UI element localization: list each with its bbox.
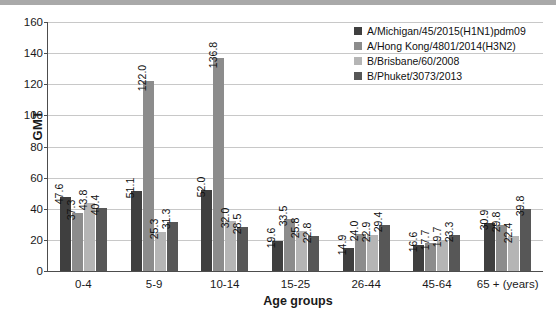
- y-axis-tick-label: 120: [24, 78, 43, 90]
- bar-value-label: 19.6: [265, 227, 277, 247]
- legend-swatch: [354, 57, 362, 65]
- bar-value-label: 29.4: [372, 212, 384, 232]
- bar: 37.3: [72, 213, 83, 271]
- bar-value-label: 22.9: [360, 222, 372, 242]
- bar-value-label: 25.3: [148, 218, 160, 238]
- bar: 136.8: [213, 58, 224, 271]
- x-axis-tick-label: 5-9: [146, 278, 163, 290]
- x-axis-tick-label: 65 + (years): [477, 278, 539, 290]
- legend-label: A/Michigan/45/2015(H1N1)pdm09: [367, 25, 526, 37]
- bar: 29.4: [379, 225, 390, 271]
- bar-value-label: 47.6: [53, 184, 65, 204]
- legend-item: A/Michigan/45/2015(H1N1)pdm09: [354, 25, 526, 37]
- y-axis-tick-label: 160: [24, 16, 43, 28]
- bar-value-label: 52.0: [195, 177, 207, 197]
- legend-item: A/Hong Kong/4801/2014(H3N2): [354, 40, 526, 52]
- bar: 25.3: [155, 232, 166, 271]
- bar: 17.7: [425, 243, 436, 271]
- bar-group: 52.0136.832.028.510-14: [189, 22, 260, 271]
- legend-label: B/Brisbane/60/2008: [367, 55, 459, 67]
- legend-label: B/Phuket/3073/2013: [367, 70, 462, 82]
- legend-swatch: [354, 72, 362, 80]
- y-axis-tick-label: 0: [37, 265, 43, 277]
- bar-value-label: 19.7: [431, 227, 443, 247]
- legend-label: A/Hong Kong/4801/2014(H3N2): [367, 40, 516, 52]
- bar-value-label: 51.1: [124, 178, 136, 198]
- y-axis-tick-label: 40: [30, 203, 43, 215]
- x-axis-tick-label: 0-4: [75, 278, 92, 290]
- bar: 51.1: [131, 191, 142, 271]
- x-axis-tick-label: 45-64: [422, 278, 451, 290]
- bar-value-label: 25.8: [289, 218, 301, 238]
- bar-value-label: 33.5: [277, 206, 289, 226]
- chart-legend: A/Michigan/45/2015(H1N1)pdm09A/Hong Kong…: [354, 25, 526, 82]
- bar: 22.8: [308, 236, 319, 271]
- bar-value-label: 28.5: [231, 213, 243, 233]
- x-axis-title: Age groups: [44, 294, 552, 308]
- bar-value-label: 136.8: [207, 42, 219, 68]
- bar-value-label: 122.0: [136, 65, 148, 91]
- bar-value-label: 32.0: [219, 208, 231, 228]
- bar: 31.3: [167, 222, 178, 271]
- bar: 22.9: [367, 235, 378, 271]
- x-axis-tick-label: 26-44: [351, 278, 380, 290]
- bar: 39.8: [520, 209, 531, 271]
- bar: 14.9: [343, 248, 354, 271]
- bar-value-label: 30.9: [478, 210, 490, 230]
- y-axis-tick-label: 60: [30, 172, 43, 184]
- bar: 23.3: [449, 235, 460, 271]
- bar-value-label: 39.8: [514, 196, 526, 216]
- bar: 19.7: [437, 240, 448, 271]
- legend-item: B/Phuket/3073/2013: [354, 70, 526, 82]
- grouped-bar-chart: GMT 020406080100120140160 47.637.343.840…: [0, 0, 556, 315]
- y-axis-tick-label: 140: [24, 47, 43, 59]
- y-axis-tick-mark: [44, 271, 48, 272]
- bar-value-label: 23.3: [443, 222, 455, 242]
- y-axis-tick-label: 20: [30, 234, 43, 246]
- x-axis-tick-label: 15-25: [281, 278, 310, 290]
- bar-value-label: 29.8: [490, 211, 502, 231]
- y-axis-tick-label: 100: [24, 109, 43, 121]
- bar: 22.4: [508, 236, 519, 271]
- bar-value-label: 43.8: [77, 190, 89, 210]
- legend-swatch: [354, 27, 362, 35]
- y-axis-tick-label: 80: [30, 141, 43, 153]
- bar-value-label: 40.4: [89, 195, 101, 215]
- bar-value-label: 31.3: [160, 209, 172, 229]
- bar: 52.0: [201, 190, 212, 271]
- bar-value-label: 22.8: [301, 222, 313, 242]
- bar-group: 19.633.525.822.815-25: [260, 22, 331, 271]
- x-axis-tick-label: 10-14: [210, 278, 239, 290]
- bar-value-label: 17.7: [419, 230, 431, 250]
- bar: 28.5: [237, 227, 248, 271]
- bar-value-label: 14.9: [336, 235, 348, 255]
- bar-value-label: 37.3: [65, 200, 77, 220]
- bar-value-label: 16.6: [407, 232, 419, 252]
- legend-swatch: [354, 42, 362, 50]
- bar: 122.0: [143, 81, 154, 271]
- bar-group: 51.1122.025.331.35-9: [119, 22, 190, 271]
- bar: 40.4: [96, 208, 107, 271]
- legend-item: B/Brisbane/60/2008: [354, 55, 526, 67]
- bar: 19.6: [272, 241, 283, 272]
- bar-value-label: 24.0: [348, 220, 360, 240]
- bar-group: 47.637.343.840.40-4: [48, 22, 119, 271]
- bar-value-label: 22.4: [502, 223, 514, 243]
